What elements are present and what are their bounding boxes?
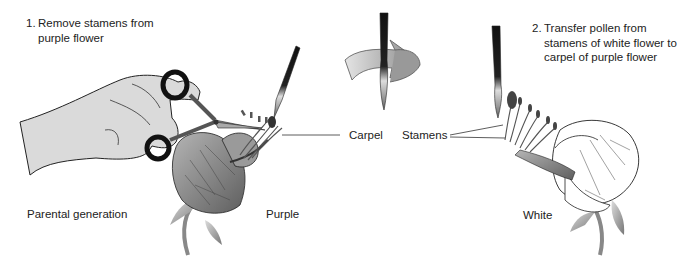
step-1-line-1: Remove stamens from xyxy=(38,17,154,29)
purple-label: Purple xyxy=(266,207,299,221)
step-1-number: 1. xyxy=(26,16,38,31)
white-flower-icon xyxy=(505,91,639,255)
step-2-line-3: carpel of purple flower xyxy=(532,50,677,65)
white-label: White xyxy=(523,208,552,222)
stamens-label: Stamens xyxy=(402,128,447,142)
carpel-label: Carpel xyxy=(349,128,383,142)
step-2-number: 2. xyxy=(532,21,544,36)
step-2-line-2: stamens of white flower to xyxy=(532,36,677,51)
parental-generation-label: Parental generation xyxy=(27,207,127,221)
step-1-instruction: 1.Remove stamens from purple flower xyxy=(26,16,154,45)
stamens-leader-lines xyxy=(450,125,505,138)
step-2-line-1: Transfer pollen from xyxy=(544,22,646,34)
paintbrush-icon xyxy=(274,46,300,118)
paintbrush-icon xyxy=(492,26,502,118)
step-1-line-2: purple flower xyxy=(26,31,154,46)
step-2-instruction: 2.Transfer pollen from stamens of white … xyxy=(532,21,677,65)
paintbrush-icon xyxy=(380,13,388,110)
